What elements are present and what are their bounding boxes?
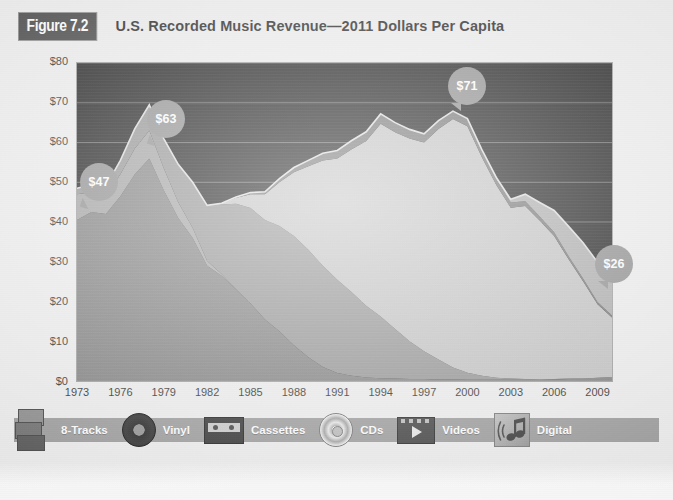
callout-26-label: $26 [595,245,633,283]
eight-track-cartridge-icon [14,407,54,453]
x-axis-tick-1976: 1976 [108,386,132,398]
x-axis-tick-1988: 1988 [282,386,306,398]
legend-label-cds: CDs [360,424,383,436]
video-tape-icon [397,417,435,444]
legend-item-digital[interactable]: Digital [494,404,586,456]
x-axis-tick-2006: 2006 [542,386,566,398]
callout-47: $47 [80,163,118,201]
callout-63-label: $63 [147,100,185,138]
legend-label-vinyl: Vinyl [163,424,190,436]
x-axis-tick-1985: 1985 [238,386,262,398]
callout-47-label: $47 [80,163,118,201]
legend-label-videos: Videos [442,424,480,436]
legend-item-cds[interactable]: CDs [319,404,397,456]
x-axis-tick-2003: 2003 [499,386,523,398]
x-axis-tick-2000: 2000 [455,386,479,398]
callout-63: $63 [147,100,185,138]
legend-label-cassettes: Cassettes [251,424,305,436]
legend-item-videos[interactable]: Videos [397,404,494,456]
legend-items: 8-Tracks Vinyl Cassettes CDs Videos [14,404,659,456]
x-axis-tick-2009: 2009 [585,386,609,398]
callout-26: $26 [595,245,633,283]
compact-disc-icon [319,413,353,447]
legend-item-vinyl[interactable]: Vinyl [122,404,204,456]
figure-container: Figure 7.2 U.S. Recorded Music Revenue—2… [0,0,673,500]
legend-label-digital: Digital [537,424,572,436]
callout-71-label: $71 [448,67,486,105]
x-axis-tick-1973: 1973 [65,386,89,398]
legend-label-8-tracks: 8-Tracks [61,424,108,436]
x-axis-tick-1991: 1991 [325,386,349,398]
x-axis-tick-1979: 1979 [152,386,176,398]
callout-tail [451,103,461,111]
x-axis-tick-1982: 1982 [195,386,219,398]
cassette-tape-icon [204,417,244,444]
x-axis-tick-1997: 1997 [412,386,436,398]
legend-item-cassettes[interactable]: Cassettes [204,404,319,456]
x-axis-tick-1994: 1994 [368,386,392,398]
vinyl-record-icon [122,413,156,447]
callout-71: $71 [448,67,486,105]
callout-tail [598,281,608,289]
legend-item-8-tracks[interactable]: 8-Tracks [14,404,122,456]
digital-music-note-icon [494,413,530,447]
